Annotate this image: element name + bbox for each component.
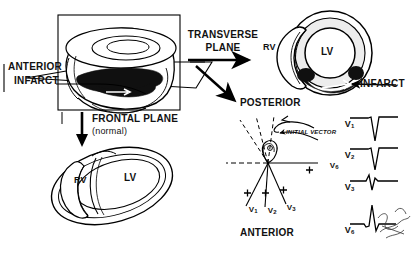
label-transverse-plane-line2: PLANE — [184, 43, 262, 54]
label-anterior-infarct-line1: ANTERIOR — [8, 62, 62, 73]
ecg-label-v6-sub: 6 — [351, 229, 355, 235]
ecg-label-v2-sub: 2 — [351, 154, 355, 160]
ecg-trace-v3 — [350, 175, 398, 190]
figure-canvas: ANTERIOR INFARCT TRANSVERSE PLANE FRONTA… — [0, 0, 416, 256]
ecg-trace-panel — [350, 117, 398, 231]
label-posterior: POSTERIOR — [240, 98, 301, 109]
posterior-dashed-rays — [226, 116, 274, 163]
label-rv-transverse: RV — [263, 43, 276, 52]
ecg-label-v1-sub: 1 — [351, 123, 355, 129]
transverse-plane-arrow — [188, 60, 248, 62]
frontal-plane-heart — [42, 134, 181, 237]
initial-vector-pointer — [274, 116, 318, 140]
heart-3d-perspective — [66, 28, 176, 113]
ecg-label-v2: V2 — [334, 142, 355, 170]
vector-lead-label-v1: V1 — [239, 198, 258, 223]
transverse-to-vector-arrow — [196, 66, 234, 100]
qrs-vector-loop — [262, 141, 277, 163]
frontal-plane-arrow — [62, 112, 88, 147]
vector-lead-v3-sub: 3 — [292, 206, 296, 212]
ecg-trace-v2 — [350, 148, 398, 170]
vector-lead-label-v2: V2 — [258, 199, 277, 224]
label-lv-transverse: LV — [321, 47, 333, 58]
ecg-label-v6: V6 — [334, 217, 355, 245]
label-frontal-plane-note: (normal) — [92, 127, 127, 136]
polarity-marks — [244, 167, 313, 197]
label-frontal-plane: FRONTAL PLANE — [92, 114, 178, 125]
label-infarct: INFARCT — [360, 79, 405, 90]
label-anterior-infarct-line2: INFARCT — [14, 76, 59, 87]
vector-lead-label-v3: V3 — [277, 196, 296, 221]
ecg-trace-v1 — [350, 117, 398, 141]
label-anterior: ANTERIOR — [240, 228, 294, 239]
artist-signature — [378, 208, 410, 238]
ecg-label-v1: V1 — [334, 111, 355, 139]
label-initial-vector: INITIAL VECTOR — [286, 129, 336, 135]
label-transverse-plane-line1: TRANSVERSE — [184, 30, 262, 41]
label-rv-frontal: RV — [74, 176, 87, 185]
ecg-label-v3-sub: 3 — [351, 186, 355, 192]
ecg-label-v3: V3 — [334, 174, 355, 202]
label-lv-frontal: LV — [124, 173, 136, 184]
